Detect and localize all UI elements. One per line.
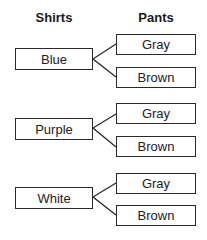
pant-box-gray: Gray (116, 103, 196, 124)
connector-white (93, 183, 116, 215)
shirt-box-blue: Blue (15, 48, 93, 70)
pant-box-gray: Gray (116, 34, 196, 55)
pant-box-gray: Gray (116, 173, 196, 194)
pant-box-brown: Brown (116, 67, 196, 88)
pant-box-brown: Brown (116, 205, 196, 226)
pant-box-brown: Brown (116, 136, 196, 157)
shirt-box-purple: Purple (15, 118, 93, 140)
shirt-box-white: White (15, 187, 93, 209)
connector-blue (93, 44, 116, 77)
connector-purple (93, 114, 116, 147)
